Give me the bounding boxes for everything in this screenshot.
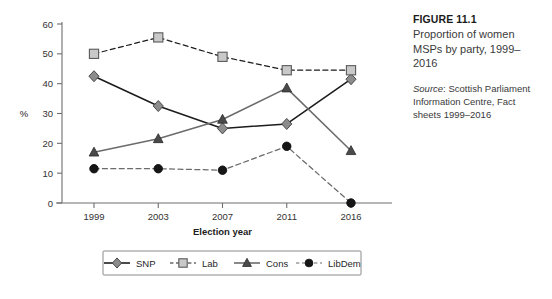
figure-title: Proportion of women MSPs by party, 1999–… (413, 27, 543, 71)
data-point (154, 164, 162, 172)
x-tick-label: 2007 (212, 211, 233, 222)
data-point (283, 142, 291, 150)
data-point (282, 66, 291, 75)
y-tick-group: 0102030405060 (42, 19, 62, 209)
figure-number: 11.1 (456, 13, 476, 25)
legend-marker (179, 259, 187, 267)
figure-word: FIGURE (413, 13, 453, 25)
chart-panel: 0102030405060%19992003200720112016Electi… (0, 0, 400, 299)
line-chart: 0102030405060%19992003200720112016Electi… (0, 0, 400, 299)
data-point (218, 114, 228, 123)
legend-label: Lab (202, 258, 218, 269)
y-tick-label: 10 (42, 168, 53, 179)
x-tick-label: 2016 (340, 211, 361, 222)
y-axis-label: % (20, 108, 29, 119)
y-tick-label: 40 (42, 78, 53, 89)
x-axis-title: Election year (193, 226, 252, 237)
data-point (90, 164, 98, 172)
data-point (218, 52, 227, 61)
data-point (282, 118, 292, 129)
x-tick-label: 1999 (83, 211, 104, 222)
data-point (346, 66, 355, 75)
figure-source: Source: Scottish Parliament Information … (413, 82, 543, 122)
y-tick-label: 30 (42, 108, 53, 119)
figure-heading: FIGURE 11.1 (413, 12, 543, 26)
legend-label: Cons (266, 258, 288, 269)
y-tick-label: 0 (48, 198, 53, 209)
legend-label: LibDem (328, 258, 361, 269)
series-cons (89, 83, 356, 156)
series-snp (89, 71, 356, 134)
x-tick-label: 2003 (148, 211, 169, 222)
x-tick-group: 19992003200720112016 (83, 203, 361, 222)
legend-marker (305, 259, 313, 267)
data-point (154, 33, 163, 42)
data-point (153, 101, 163, 112)
data-point (218, 166, 226, 174)
chart-legend: SNPLabConsLibDem (103, 251, 361, 275)
series-lab (89, 33, 355, 75)
y-tick-label: 20 (42, 138, 53, 149)
figure-caption: FIGURE 11.1 Proportion of women MSPs by … (413, 12, 543, 121)
data-point (89, 71, 99, 82)
data-point (89, 49, 98, 58)
y-tick-label: 60 (42, 19, 53, 30)
data-point (217, 123, 227, 134)
legend-label: SNP (136, 258, 156, 269)
x-tick-label: 2011 (277, 211, 297, 222)
data-point (282, 83, 292, 92)
data-point (347, 199, 355, 207)
y-tick-label: 50 (42, 48, 53, 59)
figure-container: 0102030405060%19992003200720112016Electi… (0, 0, 552, 299)
source-label: Source (413, 83, 443, 94)
axes-group (56, 22, 392, 203)
series-libdem (90, 142, 355, 207)
